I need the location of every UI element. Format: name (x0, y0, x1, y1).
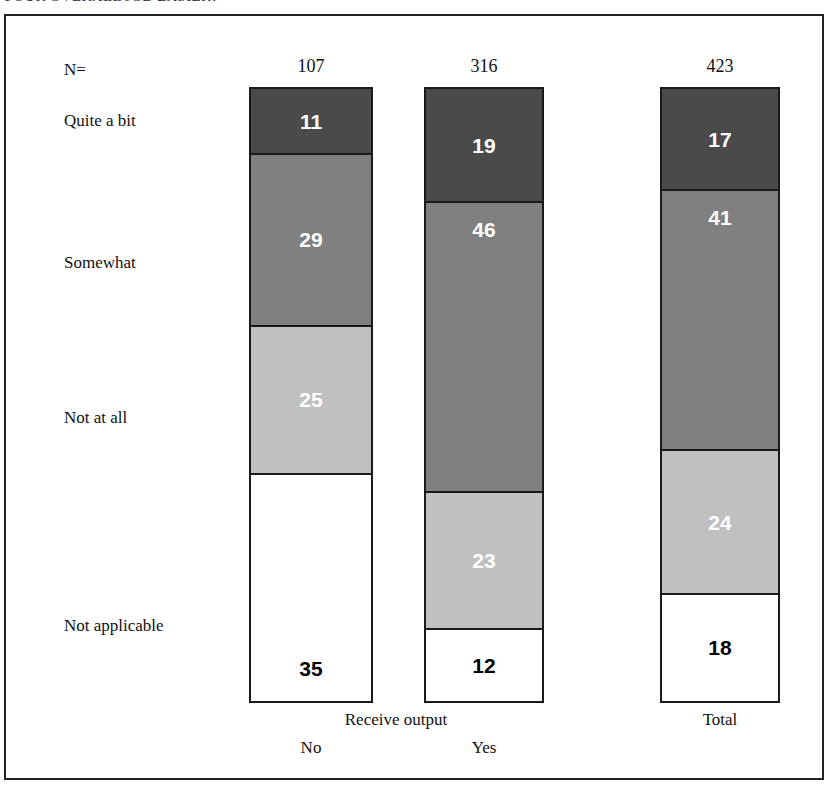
bar-total[interactable]: 17 41 24 18 (660, 87, 780, 703)
category-label-not-applicable: Not applicable (64, 616, 164, 636)
segment-value: 25 (299, 389, 322, 410)
segment-value: 46 (472, 219, 495, 240)
segment-total-somewhat[interactable]: 41 (662, 189, 778, 449)
category-label-not-at-all: Not at all (64, 408, 127, 428)
category-label-somewhat: Somewhat (64, 253, 136, 273)
segment-no-not-at-all[interactable]: 25 (251, 325, 371, 473)
segment-value: 17 (708, 129, 731, 150)
segment-value: 18 (708, 637, 731, 658)
segment-no-somewhat[interactable]: 29 (251, 153, 371, 324)
bar-yes[interactable]: 19 46 23 12 (424, 87, 544, 703)
segment-total-not-applicable[interactable]: 18 (662, 593, 778, 701)
segment-value: 24 (708, 512, 731, 533)
segment-value: 35 (299, 658, 322, 679)
segment-value: 23 (472, 550, 495, 571)
axis-label-yes: Yes (424, 738, 544, 758)
clipped-heading: YOUR OVERALL JOB EASIER? (0, 0, 833, 6)
category-label-quite-a-bit: Quite a bit (64, 111, 136, 131)
segment-yes-quite-a-bit[interactable]: 19 (426, 89, 542, 201)
segment-value: 29 (299, 229, 322, 250)
segment-yes-not-applicable[interactable]: 12 (426, 628, 542, 701)
segment-yes-not-at-all[interactable]: 23 (426, 491, 542, 629)
segment-no-not-applicable[interactable]: 35 (251, 473, 371, 701)
n-row-label: N= (64, 60, 86, 80)
n-value-no: 107 (249, 56, 373, 77)
segment-value: 19 (472, 135, 495, 156)
n-value-total: 423 (660, 56, 780, 77)
axis-group-title-receive-output: Receive output (306, 710, 486, 730)
plot-area: N= 107 316 423 Quite a bit Somewhat Not … (6, 16, 822, 778)
segment-value: 11 (300, 111, 322, 132)
bar-no[interactable]: 11 29 25 35 (249, 87, 373, 703)
axis-label-no: No (249, 738, 373, 758)
n-value-yes: 316 (424, 56, 544, 77)
axis-label-total: Total (660, 710, 780, 730)
segment-total-not-at-all[interactable]: 24 (662, 449, 778, 593)
segment-value: 12 (472, 655, 495, 676)
figure-frame: N= 107 316 423 Quite a bit Somewhat Not … (4, 14, 824, 780)
segment-yes-somewhat[interactable]: 46 (426, 201, 542, 490)
segment-value: 41 (708, 207, 731, 228)
segment-total-quite-a-bit[interactable]: 17 (662, 89, 778, 189)
segment-no-quite-a-bit[interactable]: 11 (251, 89, 371, 153)
